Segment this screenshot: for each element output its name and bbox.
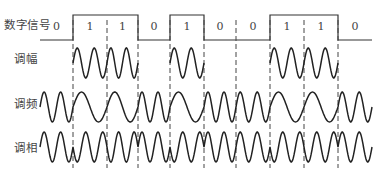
bit-label: 0 — [151, 20, 158, 33]
modulation-diagram: 0110100110 — [0, 0, 382, 181]
bit-labels: 0110100110 — [53, 20, 359, 33]
bit-label: 1 — [284, 20, 291, 33]
bit-label: 0 — [217, 20, 224, 33]
am-waveform — [73, 48, 338, 78]
bit-label: 0 — [53, 20, 60, 33]
bit-label: 1 — [184, 20, 191, 33]
bit-label: 1 — [87, 20, 94, 33]
pm-waveform — [40, 132, 372, 162]
bit-label: 0 — [352, 20, 359, 33]
fm-waveform — [40, 92, 372, 122]
bit-label: 1 — [318, 20, 325, 33]
bit-label: 1 — [119, 20, 126, 33]
bit-label: 0 — [250, 20, 257, 33]
